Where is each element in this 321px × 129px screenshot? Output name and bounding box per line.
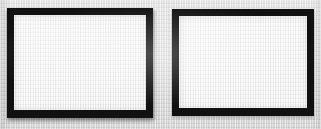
- right-panel-content: [178, 15, 179, 16]
- figure-container: [0, 0, 321, 129]
- right-panel: [172, 9, 314, 116]
- left-panel-content: [13, 14, 14, 15]
- left-panel: [7, 8, 153, 118]
